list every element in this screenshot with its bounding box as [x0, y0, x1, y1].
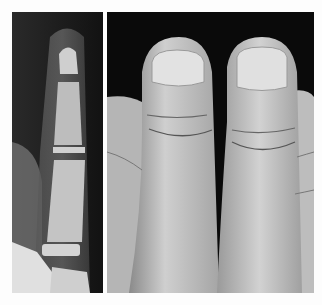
xray-panel	[12, 12, 103, 293]
thumbs-photo-panel	[107, 12, 314, 293]
xray-image	[12, 12, 103, 293]
thumbs-photo-image	[107, 12, 314, 293]
